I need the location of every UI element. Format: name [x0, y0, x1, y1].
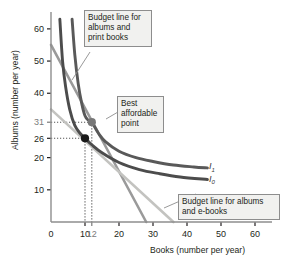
x-tick-label: 60 — [250, 229, 260, 239]
e-books-best-point — [81, 134, 89, 142]
x-tick-label: 12 — [87, 229, 97, 239]
x-tick-label: 50 — [216, 229, 226, 239]
y-tick-label: 50 — [34, 56, 44, 66]
y-axis-ticks: 10202631405060 — [34, 24, 51, 195]
x-axis-title: Books (number per year) — [150, 245, 245, 255]
y-tick-label: 10 — [34, 185, 44, 195]
y-tick-label: 20 — [34, 153, 44, 163]
callout-budget-ebooks: Budget line for albums and e-books — [178, 194, 280, 220]
x-tick-label: 30 — [148, 229, 158, 239]
curve-label-i0: I0 — [209, 174, 216, 186]
chart-figure: Albums (number per year) Books (number p… — [0, 0, 285, 262]
y-tick-label: 31 — [34, 117, 44, 127]
x-tick-label: 40 — [182, 229, 192, 239]
y-axis-title: Albums (number per year) — [10, 25, 20, 175]
y-tick-label: 60 — [34, 24, 44, 34]
data-points — [81, 118, 96, 142]
x-tick-label: 20 — [114, 229, 124, 239]
x-axis-ticks: 010122030405060 — [48, 222, 260, 239]
x-tick-label: 0 — [48, 229, 53, 239]
curve-labels: I1I0 — [209, 161, 216, 185]
y-tick-label: 40 — [34, 88, 44, 98]
y-tick-label: 26 — [34, 134, 44, 144]
curve-label-i1: I1 — [209, 161, 215, 173]
callout-budget-print-books: Budget line for albums and print books — [84, 10, 152, 47]
best-affordable-point — [88, 118, 96, 126]
callout-best-affordable-point: Best affordable point — [117, 96, 164, 133]
